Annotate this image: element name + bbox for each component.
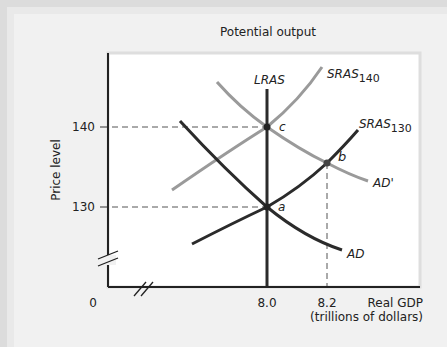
plot-area [108, 53, 420, 287]
point-c [264, 124, 271, 131]
label-lras: LRAS [254, 73, 285, 87]
point-b [324, 160, 331, 167]
chart-title: Potential output [220, 25, 316, 39]
label-ad: AD [346, 247, 364, 261]
label-c: c [279, 120, 286, 134]
y-axis-label: Price level [49, 139, 63, 201]
label-a: a [278, 200, 285, 214]
x-tick-0: 0 [89, 296, 97, 310]
y-tick-130: 130 [72, 200, 95, 214]
x-tick-8-0: 8.0 [257, 296, 276, 310]
x-tick-8-2: 8.2 [317, 296, 336, 310]
label-ad-prime: AD' [372, 176, 394, 190]
y-tick-140: 140 [72, 120, 95, 134]
x-axis-label: Real GDP [368, 296, 423, 310]
point-a [264, 204, 271, 211]
chart: Potential output Price level c a b LRAS … [0, 0, 447, 347]
x-axis-sublabel: (trillions of dollars) [310, 310, 423, 324]
label-b: b [338, 149, 346, 164]
